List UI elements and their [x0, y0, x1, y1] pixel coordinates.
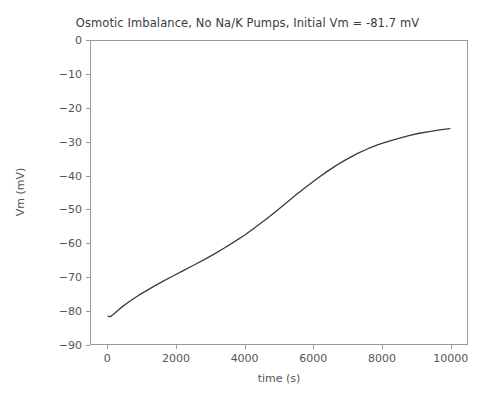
- y-tick-label: −30: [38, 135, 82, 148]
- x-tick-mark: [176, 345, 177, 349]
- x-tick-label: 2000: [162, 352, 190, 365]
- y-tick-mark: [86, 345, 90, 346]
- y-tick-label: −10: [38, 67, 82, 80]
- x-tick-mark: [382, 345, 383, 349]
- plot-area: [90, 40, 468, 345]
- y-tick-label: −20: [38, 101, 82, 114]
- chart-title: Osmotic Imbalance, No Na/K Pumps, Initia…: [0, 16, 495, 30]
- y-axis-label: Vm (mV): [14, 168, 27, 217]
- x-tick-label: 4000: [231, 352, 259, 365]
- y-tick-label: −80: [38, 305, 82, 318]
- x-tick-label: 8000: [368, 352, 396, 365]
- x-axis-label: time (s): [90, 372, 468, 385]
- y-tick-label: −70: [38, 271, 82, 284]
- y-tick-label: −50: [38, 203, 82, 216]
- y-tick-label: −90: [38, 339, 82, 352]
- x-tick-label: 0: [104, 352, 111, 365]
- x-tick-mark: [451, 345, 452, 349]
- x-tick-label: 10000: [433, 352, 468, 365]
- y-tick-label: 0: [38, 34, 82, 47]
- line-curve: [91, 41, 467, 344]
- y-tick-label: −60: [38, 237, 82, 250]
- x-tick-mark: [107, 345, 108, 349]
- matplotlib-figure: Osmotic Imbalance, No Na/K Pumps, Initia…: [0, 0, 495, 401]
- x-tick-mark: [245, 345, 246, 349]
- x-tick-mark: [313, 345, 314, 349]
- y-tick-label: −40: [38, 169, 82, 182]
- x-tick-label: 6000: [299, 352, 327, 365]
